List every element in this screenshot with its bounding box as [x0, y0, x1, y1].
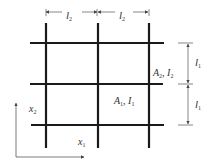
top-dimensions [46, 9, 149, 16]
right-dim-label-1: l1 [195, 56, 201, 69]
axis-x2-label: x2 [28, 103, 36, 115]
right-dimensions [178, 43, 193, 125]
beam-grid-diagram: l2 l2 l1 l1 A2, I2 A1, I1 x2 x1 [0, 0, 212, 167]
top-dim-label-1: l2 [66, 9, 72, 22]
right-dim-label-2: l1 [195, 98, 201, 111]
coordinate-axes [16, 103, 84, 157]
axis-x1-label: x1 [77, 136, 85, 148]
beam1-properties-label: A1, I1 [113, 95, 134, 107]
beam2-properties-label: A2, I2 [152, 67, 173, 79]
vertical-beams [46, 23, 149, 148]
top-dim-label-2: l2 [119, 9, 125, 22]
